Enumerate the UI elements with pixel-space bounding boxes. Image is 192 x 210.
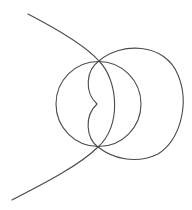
diagram-svg bbox=[0, 0, 192, 210]
diagram-canvas bbox=[0, 0, 192, 210]
outer-branch-curve bbox=[12, 14, 115, 200]
left-circle bbox=[56, 62, 141, 147]
inner-cusp-curve bbox=[88, 61, 99, 147]
